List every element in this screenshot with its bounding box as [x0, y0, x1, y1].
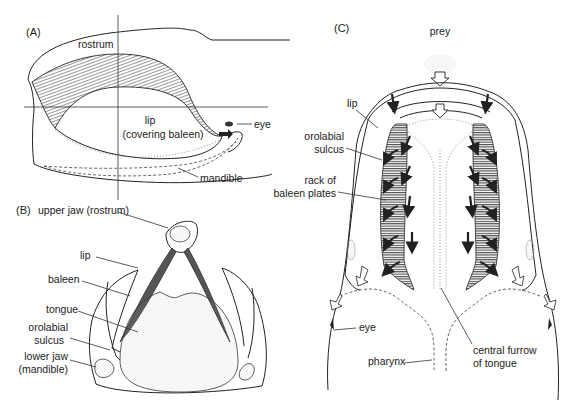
label-lip: lip — [145, 114, 156, 126]
center-flow-arrow-icon — [432, 104, 448, 118]
label-lower-jaw: lower jaw — [24, 350, 68, 362]
panel-b: (B) upper jaw (rostrum) lip baleen tongu… — [16, 204, 266, 393]
label-orolabial: orolabial — [28, 321, 68, 333]
label-pharynx: pharynx — [368, 355, 406, 367]
label-sulcus: sulcus — [34, 334, 64, 346]
label-eye-c: eye — [359, 321, 376, 333]
label-prey: prey — [430, 25, 451, 37]
label-mandible-b: (mandible) — [18, 363, 68, 375]
eye-right-icon — [548, 318, 552, 330]
panel-a: (A) rostrum lip (covering baleen) eye ma… — [24, 15, 290, 200]
panel-b-label: (B) — [16, 204, 31, 216]
water-inflow-arrow-icon — [431, 72, 449, 86]
label-lip-c: lip — [347, 97, 358, 109]
panel-a-label: (A) — [26, 26, 41, 38]
outflow-arrow-left-lower-icon — [330, 294, 342, 310]
outflow-arrow-left-icon — [356, 266, 368, 286]
baleen-feeding-diagram: (A) rostrum lip (covering baleen) eye ma… — [0, 0, 579, 408]
eye-left-icon — [330, 318, 334, 330]
outflow-arrow-right-lower-icon — [544, 294, 556, 310]
label-upper-jaw: upper jaw (rostrum) — [38, 204, 129, 216]
label-tongue: tongue — [46, 303, 78, 315]
label-of-tongue: of tongue — [473, 357, 517, 369]
label-rack: rack of — [304, 174, 336, 186]
label-lip-b: lip — [80, 249, 91, 261]
baleen-band — [32, 54, 222, 136]
side-pad-right — [526, 240, 534, 260]
label-lip-sub: (covering baleen) — [122, 128, 203, 140]
label-mandible: mandible — [200, 172, 243, 184]
tongue — [120, 292, 238, 392]
tongue-outline — [408, 132, 434, 290]
rostrum-bone — [170, 226, 190, 242]
outflow-arrow-right-icon — [512, 266, 524, 286]
label-baleen: baleen — [48, 273, 80, 285]
label-sulcus-c: sulcus — [314, 143, 344, 155]
mandible-bone-left — [95, 359, 114, 377]
panel-c: (C) prey — [274, 22, 559, 400]
eye-icon — [225, 122, 233, 127]
label-baleen-plates: baleen plates — [274, 187, 336, 199]
label-orolabial-c: orolabial — [304, 130, 344, 142]
mandible-bone-right — [239, 364, 254, 380]
label-central-furrow: central furrow — [473, 344, 537, 356]
label-eye: eye — [254, 118, 271, 130]
label-rostrum: rostrum — [78, 38, 114, 50]
panel-c-label: (C) — [334, 22, 349, 34]
prey-cloud — [424, 54, 456, 74]
mandible-outline — [44, 138, 238, 176]
side-pad-left — [347, 240, 355, 260]
